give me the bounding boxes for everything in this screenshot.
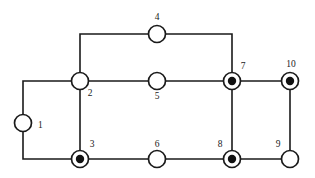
graph-node-10[interactable]: [282, 73, 299, 90]
node-fill-dot-8: [228, 155, 236, 163]
graph-edge-1-3: [23, 132, 72, 160]
node-label-6: 6: [155, 139, 160, 149]
node-fill-dot-10: [286, 77, 294, 85]
node-outline-5: [149, 73, 166, 90]
node-fill-dot-7: [228, 77, 236, 85]
node-label-1: 1: [38, 120, 43, 130]
graph-node-7[interactable]: [224, 73, 241, 90]
graph-figure: 12345678910: [0, 0, 315, 178]
node-outline-4: [149, 26, 166, 43]
node-label-8: 8: [218, 139, 223, 149]
node-label-10: 10: [286, 59, 296, 69]
graph-edge-2-4: [80, 34, 149, 73]
node-fill-dot-3: [76, 155, 84, 163]
graph-node-8[interactable]: [224, 151, 241, 168]
node-outline-2: [72, 73, 89, 90]
node-label-9: 9: [276, 139, 281, 149]
graph-node-5[interactable]: [149, 73, 166, 90]
node-outline-1: [15, 115, 32, 132]
graph-canvas: 12345678910: [0, 0, 315, 178]
node-outline-6: [149, 151, 166, 168]
graph-node-9[interactable]: [282, 151, 299, 168]
graph-edge-4-7: [166, 34, 233, 73]
node-label-3: 3: [90, 139, 95, 149]
node-label-7: 7: [241, 61, 246, 71]
node-label-2: 2: [88, 88, 93, 98]
node-label-5: 5: [155, 91, 160, 101]
graph-node-3[interactable]: [72, 151, 89, 168]
node-outline-9: [282, 151, 299, 168]
graph-node-1[interactable]: [15, 115, 32, 132]
graph-edge-1-2: [23, 81, 72, 115]
graph-node-2[interactable]: [72, 73, 89, 90]
node-label-4: 4: [155, 12, 160, 22]
graph-node-4[interactable]: [149, 26, 166, 43]
graph-node-6[interactable]: [149, 151, 166, 168]
